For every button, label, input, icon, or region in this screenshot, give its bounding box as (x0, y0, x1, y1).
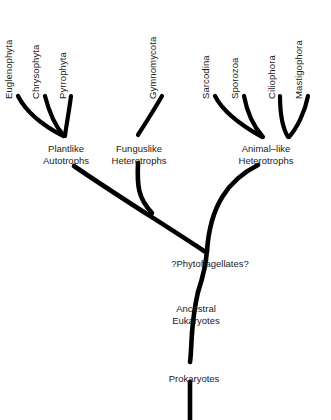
branch-ciliophora (280, 96, 288, 137)
tip-label-mastigophora: Mastigophora (293, 40, 304, 99)
branch-gymnomycota (138, 96, 162, 135)
phylogenetic-tree-diagram: EuglenophytaChrysophytaPyrrophytaGymnomy… (0, 0, 331, 420)
node-label-line-2: Heterotrophs (112, 155, 167, 167)
tip-label-ciliophora: Ciliophora (266, 55, 277, 99)
branch-pyrrophyta (65, 96, 71, 136)
tip-label-sporozoa: Sporozoa (229, 58, 240, 99)
tip-label-sarcodina: Sarcodina (200, 55, 211, 99)
branch-animallike-stem (207, 165, 258, 251)
node-label-line-2: Heterotrophs (239, 155, 294, 167)
tip-label-gymnomycota: Gymnomycota (147, 37, 158, 99)
tip-label-chrysophyta: Chrysophyta (30, 45, 41, 99)
node-label-line-1: Ancestral (176, 303, 216, 314)
node-label-line-1: Prokaryotes (169, 373, 220, 384)
branch-trunk-lower (190, 333, 192, 362)
tree-branches-svg (0, 0, 331, 420)
node-label-line-1: Plantlike (48, 143, 84, 154)
node-label-line-2: Autotrophs (43, 155, 89, 167)
node-label-funguslike-heterotrophs: FunguslikeHeterotrophs (112, 143, 167, 166)
branch-funguslike-stem (138, 163, 152, 213)
tip-label-euglenophyta: Euglenophyta (3, 40, 14, 99)
node-label-ancestral-eukaryotes: AncestralEukaryotes (172, 303, 220, 326)
tip-label-pyrrophyta: Pyrrophyta (57, 52, 68, 99)
node-label-plantlike-autotrophs: PlantlikeAutotrophs (43, 143, 89, 166)
node-label-line-1: ?Phytoflagellates? (171, 258, 249, 269)
node-label-line-1: Funguslike (116, 143, 162, 154)
branch-sarcodina (215, 96, 262, 137)
node-label-prokaryotes: Prokaryotes (169, 373, 220, 385)
node-label-animal-like-heterotrophs: Animal–likeHeterotrophs (239, 143, 294, 166)
node-label-line-1: Animal–like (242, 143, 291, 154)
node-label-line-2: Eukaryotes (172, 315, 220, 327)
branch-mastigophora (289, 96, 308, 137)
branch-trunk-upper (198, 250, 207, 292)
node-label-phytoflagellates: ?Phytoflagellates? (171, 258, 249, 270)
branch-euglenophyta (18, 96, 63, 136)
